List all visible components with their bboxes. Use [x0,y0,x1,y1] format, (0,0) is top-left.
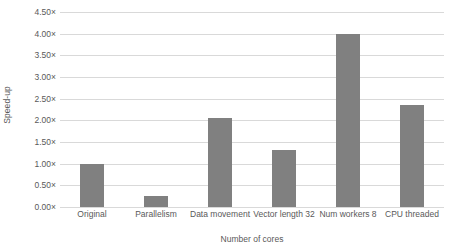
bar-slot [380,12,444,207]
y-axis-title-label: Speed-up [2,86,12,124]
x-axis-tick-label: Num workers 8 [316,209,380,220]
bars-container [60,12,444,207]
bar-slot [188,12,252,207]
bar-slot [124,12,188,207]
y-axis-tick-label: 2.50× [34,94,56,104]
y-axis-tick-label: 3.50× [34,50,56,60]
x-axis-tick-label: Vector length 32 [252,209,316,220]
bar[interactable] [336,34,361,207]
y-axis-tick-label: 1.00× [34,159,56,169]
y-axis-tick-labels: 0.00×0.50×1.00×1.50×2.00×2.50×3.00×3.50×… [16,0,60,210]
x-axis-title: Number of cores [60,234,444,244]
y-axis-tick-label: 0.50× [34,180,56,190]
y-axis-tick-label: 3.00× [34,72,56,82]
y-axis-tick-label: 0.00× [34,202,56,212]
x-axis-tick-label: Original [60,209,124,220]
bar[interactable] [144,196,169,207]
bar-slot [252,12,316,207]
bar[interactable] [80,164,105,207]
bar[interactable] [400,105,425,207]
bar-slot [60,12,124,207]
y-axis-tick-label: 4.00× [34,29,56,39]
y-axis-tick-label: 1.50× [34,137,56,147]
y-axis-tick-label: 2.00× [34,115,56,125]
gridline [60,207,444,208]
bar-chart: Speed-up 0.00×0.50×1.00×1.50×2.00×2.50×3… [0,0,451,252]
bar[interactable] [208,118,233,207]
x-axis-tick-label: Parallelism [124,209,188,220]
bar-slot [316,12,380,207]
y-axis-title: Speed-up [0,0,14,210]
x-axis-tick-label: CPU threaded [380,209,444,220]
x-axis-tick-labels: OriginalParallelismData movementVector l… [60,209,444,220]
plot-area [60,12,444,207]
y-axis-tick-label: 4.50× [34,7,56,17]
x-axis-tick-label: Data movement [188,209,252,220]
bar[interactable] [272,150,297,207]
